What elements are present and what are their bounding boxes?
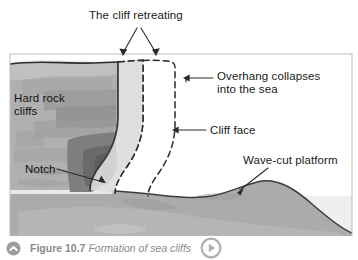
label-overhang-collapses: Overhang collapsesinto the sea bbox=[217, 70, 320, 95]
figure-title: Formation of sea cliffs bbox=[88, 242, 191, 254]
label-overhang-line-2: into the sea bbox=[217, 83, 278, 95]
label-hard-rock-line-2: cliffs bbox=[14, 105, 37, 117]
figure-sea-cliffs: The cliff retreating Overhang collapsesi… bbox=[0, 0, 358, 260]
label-hard-rock-cliffs: Hard rockcliffs bbox=[14, 92, 65, 117]
label-wave-cut-platform: Wave-cut platform bbox=[243, 154, 338, 167]
cliff-texture-f bbox=[16, 131, 44, 148]
platform-pool bbox=[94, 224, 146, 234]
label-cliff-retreating: The cliff retreating bbox=[89, 9, 183, 22]
figure-caption: Figure 10.7 Formation of sea cliffs bbox=[30, 242, 191, 254]
sea-cliff-illustration bbox=[0, 0, 358, 236]
arrow-cliff-retreating-left bbox=[123, 28, 137, 53]
label-notch: Notch bbox=[25, 163, 56, 176]
label-cliff-face: Cliff face bbox=[210, 124, 256, 137]
chevron-up-circle-icon[interactable] bbox=[6, 241, 21, 256]
figure-caption-row: Figure 10.7 Formation of sea cliffs bbox=[0, 236, 358, 260]
label-hard-rock-line-1: Hard rock bbox=[14, 92, 65, 104]
figure-number: Figure 10.7 bbox=[30, 242, 85, 254]
play-circle-icon[interactable] bbox=[200, 237, 222, 259]
label-overhang-line-1: Overhang collapses bbox=[217, 70, 320, 82]
